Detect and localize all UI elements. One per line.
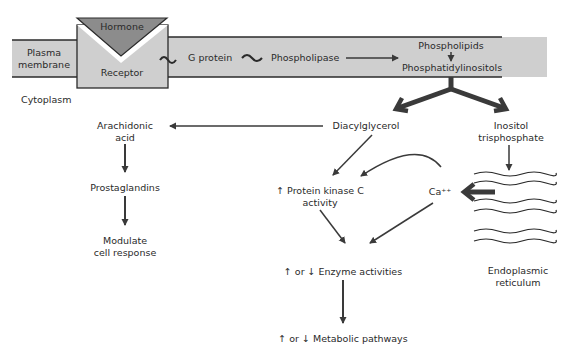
hormone-label: Hormone (92, 21, 152, 33)
g-protein-label: G protein (188, 52, 232, 64)
phospholipase-label: Phospholipase (271, 52, 339, 64)
er-line1: Endoplasmic (480, 265, 556, 277)
receptor-label: Receptor (92, 67, 152, 79)
plasma-membrane-label: Plasma membrane (16, 47, 72, 71)
phosphatidylinositols-label: Phosphatidylinositols (396, 62, 508, 74)
endoplasmic-reticulum-label: Endoplasmic reticulum (480, 265, 556, 289)
arachidonic-line2: acid (90, 132, 160, 144)
prostaglandins-label: Prostaglandins (85, 182, 165, 194)
pkc-line1: ↑ Protein kinase C (270, 185, 370, 197)
inositol-line2: trisphosphate (476, 132, 546, 144)
modulate-line2: cell response (85, 247, 165, 259)
cytoplasm-label: Cytoplasm (21, 94, 72, 106)
protein-kinase-c-label: ↑ Protein kinase C activity (270, 185, 370, 209)
er-line2: reticulum (480, 277, 556, 289)
plasma-membrane-line1: Plasma (16, 47, 72, 59)
inositol-line1: Inositol (476, 120, 546, 132)
metabolic-pathways-label: ↑ or ↓ Metabolic pathways (262, 333, 424, 345)
phospholipids-label: Phospholipids (406, 40, 496, 52)
diacylglycerol-label: Diacylglycerol (326, 120, 406, 132)
calcium-release-arrow (464, 184, 495, 200)
inositol-trisphosphate-label: Inositol trisphosphate (476, 120, 546, 144)
modulate-cell-response-label: Modulate cell response (85, 235, 165, 259)
calcium-label: Ca⁺⁺ (420, 186, 460, 198)
pkc-line2: activity (270, 197, 370, 209)
plasma-membrane-line2: membrane (16, 59, 72, 71)
fork-arrow (396, 77, 506, 111)
arachidonic-line1: Arachidonic (90, 120, 160, 132)
modulate-line1: Modulate (85, 235, 165, 247)
enzyme-activities-label: ↑ or ↓ Enzyme activities (270, 266, 416, 278)
endoplasmic-reticulum-icon (474, 172, 556, 243)
arachidonic-acid-label: Arachidonic acid (90, 120, 160, 144)
